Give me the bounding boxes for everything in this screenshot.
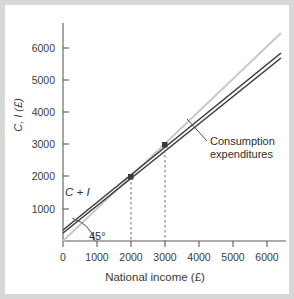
data-point-3000 xyxy=(162,142,168,148)
y-tick-marks xyxy=(63,48,69,209)
x-tick-label-6000: 6000 xyxy=(247,251,287,263)
series-label-c-plus-i: C + I xyxy=(65,186,90,198)
annotation-consumption-expenditures: Consumption expenditures xyxy=(210,135,275,160)
y-tick-label-2000: 2000 xyxy=(9,170,55,182)
x-axis-label: National income (£) xyxy=(45,271,265,283)
figure-panel: 6000 5000 4000 3000 2000 1000 0 1000 200… xyxy=(5,5,289,294)
annotation-line-2: expenditures xyxy=(210,148,275,161)
annotation-line-1: Consumption xyxy=(210,135,275,148)
data-point-2000 xyxy=(128,174,134,180)
annotation-leader-line xyxy=(187,119,207,141)
y-axis-label: C, I (£) xyxy=(12,85,24,145)
y-tick-label-6000: 6000 xyxy=(9,42,55,54)
figure-root: 6000 5000 4000 3000 2000 1000 0 1000 200… xyxy=(0,0,294,299)
angle-label-45: 45° xyxy=(89,230,106,242)
y-tick-label-1000: 1000 xyxy=(9,203,55,215)
